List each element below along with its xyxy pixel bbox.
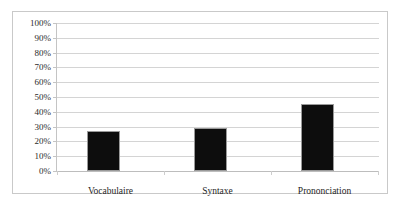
gridline-100 <box>57 23 379 24</box>
chart-figure: 100% 90% 80% 70% 60% 50% 40% 30% 20% 10%… <box>12 11 388 194</box>
bar-syntaxe <box>194 128 227 171</box>
y-axis-label-80: 80% <box>11 49 51 58</box>
gridline-50 <box>57 97 379 98</box>
y-axis-label-100: 100% <box>11 19 51 28</box>
gridline-60 <box>57 82 379 83</box>
x-axis-label-prononciation: Prononciation <box>271 186 378 196</box>
y-axis-label-70: 70% <box>11 63 51 72</box>
x-tick-2 <box>271 171 272 175</box>
bar-vocabulaire <box>87 131 120 171</box>
y-axis-label-90: 90% <box>11 34 51 43</box>
gridline-0-baseline <box>57 171 379 172</box>
y-axis-label-60: 60% <box>11 78 51 87</box>
bar-prononciation <box>301 104 334 171</box>
y-axis-label-20: 20% <box>11 137 51 146</box>
x-axis-label-syntaxe: Syntaxe <box>164 186 271 196</box>
gridline-80 <box>57 53 379 54</box>
y-axis-label-10: 10% <box>11 152 51 161</box>
gridline-90 <box>57 38 379 39</box>
x-axis-label-vocabulaire: Vocabulaire <box>57 186 164 196</box>
plot-area: Vocabulaire Syntaxe Prononciation <box>57 23 379 171</box>
y-axis-labels: 100% 90% 80% 70% 60% 50% 40% 30% 20% 10%… <box>13 12 51 195</box>
x-tick-1 <box>164 171 165 175</box>
y-axis-label-30: 30% <box>11 123 51 132</box>
x-tick-3 <box>378 171 379 175</box>
y-axis-label-40: 40% <box>11 108 51 117</box>
x-tick-0 <box>57 171 58 175</box>
gridline-70 <box>57 67 379 68</box>
y-axis-label-50: 50% <box>11 93 51 102</box>
y-axis-label-0: 0% <box>11 167 51 176</box>
